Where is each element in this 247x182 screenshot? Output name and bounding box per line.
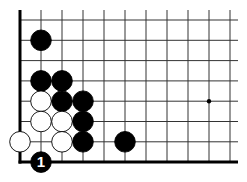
white-stone: [31, 111, 52, 132]
black-stone: [52, 91, 73, 112]
go-board: 1: [0, 0, 247, 182]
black-stone: [73, 111, 94, 132]
black-stone: [73, 132, 94, 153]
white-stone: [10, 132, 31, 153]
black-stone: [31, 30, 52, 51]
white-stone: [31, 91, 52, 112]
black-stone: [115, 132, 136, 153]
move-number-label: 1: [37, 153, 45, 170]
star-points: [207, 99, 211, 103]
black-stone: [52, 71, 73, 92]
black-stone: [73, 91, 94, 112]
black-stone: [31, 71, 52, 92]
white-stone: [52, 132, 73, 153]
star-point: [207, 99, 211, 103]
white-stone: [52, 111, 73, 132]
